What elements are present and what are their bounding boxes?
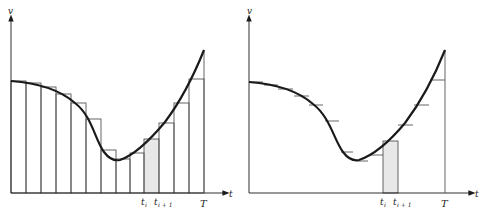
left-shaded-interval xyxy=(144,139,159,193)
left-panel: v t t i t i + 1 T xyxy=(8,6,233,209)
right-x-axis-label: t xyxy=(475,189,479,199)
right-panel: v t t i t i + 1 T xyxy=(247,6,479,209)
left-tick-T: T xyxy=(200,198,208,209)
left-curve xyxy=(11,50,204,160)
svg-text:i + 1: i + 1 xyxy=(397,201,412,208)
right-tick-t-i: t i xyxy=(380,197,386,208)
diagram-canvas: v t t i t i + 1 T xyxy=(0,0,484,212)
right-step-ticks xyxy=(249,80,445,161)
left-tick-t-i-plus-1: t i + 1 xyxy=(154,197,173,208)
right-shaded-interval xyxy=(383,141,398,193)
svg-text:i: i xyxy=(384,201,386,208)
right-y-axis-label: v xyxy=(247,6,252,16)
left-x-axis-label: t xyxy=(229,189,233,199)
left-y-axis-label: v xyxy=(8,6,13,16)
right-tick-T: T xyxy=(441,198,449,209)
left-rectangles xyxy=(11,79,204,193)
svg-text:i + 1: i + 1 xyxy=(158,201,173,208)
right-tick-t-i-plus-1: t i + 1 xyxy=(393,197,412,208)
svg-text:i: i xyxy=(145,201,147,208)
left-tick-t-i: t i xyxy=(141,197,147,208)
figure: v t t i t i + 1 T xyxy=(0,0,484,212)
